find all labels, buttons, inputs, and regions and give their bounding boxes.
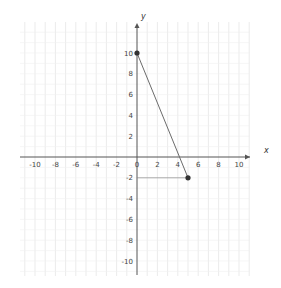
axes [20,23,250,275]
y-tick-label: 6 [129,91,134,99]
x-axis-label: x [263,146,269,155]
y-tick-label: 10 [124,50,133,58]
x-tick-label: 10 [235,161,244,169]
x-tick-label: -10 [29,161,40,169]
data-point [134,50,139,55]
y-tick-label: 8 [129,70,133,78]
x-tick-label: -4 [93,161,101,169]
y-tick-label: -8 [126,237,133,245]
x-tick-label: -6 [72,161,80,169]
y-tick-label: -2 [126,174,133,182]
x-tick-label: 8 [216,161,220,169]
y-tick-label: -6 [126,216,134,224]
y-tick-label: -4 [126,195,134,203]
y-axis-arrow-icon [135,23,140,28]
x-tick-label: -2 [113,161,120,169]
x-tick-label: 4 [176,161,181,169]
x-tick-label: 0 [135,161,139,169]
x-tick-label: 6 [196,161,201,169]
coordinate-plane: -10-8-6-4-20246810108642-2-4-6-8-10 x y [0,0,281,288]
y-tick-label: -10 [122,258,133,266]
grid-lines [20,22,250,276]
y-axis-label: y [140,12,146,21]
x-tick-label: 2 [155,161,159,169]
data-point [185,175,190,180]
y-tick-label: 4 [129,112,134,120]
y-tick-label: 2 [129,133,133,141]
x-tick-label: -8 [52,161,59,169]
